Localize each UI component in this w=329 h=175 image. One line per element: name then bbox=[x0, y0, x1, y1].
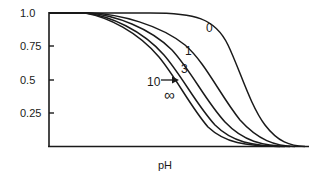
y-tick-label-075: 0.75 bbox=[20, 40, 41, 52]
y-tick-label-1: 1.0 bbox=[20, 7, 35, 19]
y-tick-label-05: 0.5 bbox=[20, 74, 35, 86]
x-axis-title: pH bbox=[158, 159, 172, 171]
curve-label-10: 10 bbox=[147, 75, 161, 89]
curve-label-0: 0 bbox=[206, 21, 213, 35]
titration-chart: 1.0 0.75 0.5 0.25 0 1 3 10 ∞ pH bbox=[0, 0, 329, 175]
curve-label-inf: ∞ bbox=[164, 86, 175, 103]
y-tick-label-025: 0.25 bbox=[20, 107, 41, 119]
curve-label-1: 1 bbox=[185, 44, 192, 58]
curve-label-3: 3 bbox=[181, 62, 188, 76]
